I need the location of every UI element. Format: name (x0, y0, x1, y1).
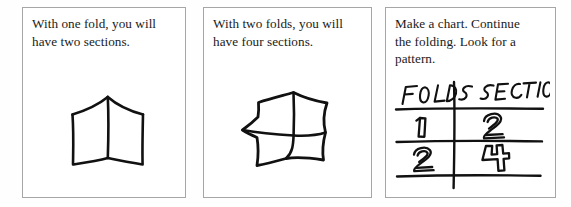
panel-two-folds-text: With two folds, you will have four secti… (213, 15, 365, 50)
panel-chart-text: Make a chart. Continue the folding. Look… (395, 15, 549, 68)
folded-paper-two-folds-drawing (239, 88, 341, 170)
chart-cell-folds-2 (414, 148, 434, 172)
chart-header-sections (481, 81, 550, 99)
folds-sections-chart (392, 80, 550, 195)
panel-one-fold-text: With one fold, you will have two section… (32, 15, 179, 50)
chart-cell-sections-4 (482, 145, 509, 171)
chart-cell-folds-1 (416, 118, 425, 137)
chart-header-folds (403, 85, 473, 104)
folded-paper-one-fold-drawing (67, 92, 149, 170)
chart-cell-sections-2 (484, 114, 504, 139)
panel-chart: Make a chart. Continue the folding. Look… (385, 7, 556, 198)
chart-column-divider (454, 82, 455, 188)
chart-rule-header (396, 108, 543, 109)
panel-one-fold: With one fold, you will have two section… (22, 7, 186, 198)
panel-two-folds: With two folds, you will have four secti… (203, 7, 372, 198)
chart-rule-row1 (397, 141, 543, 142)
chart-rule-row2 (397, 175, 541, 176)
worksheet-page: With one fold, you will have two section… (0, 0, 571, 207)
